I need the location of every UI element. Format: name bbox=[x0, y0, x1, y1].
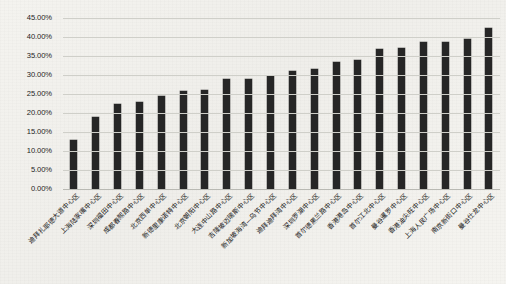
y-axis-tick-label: 0.00% bbox=[6, 184, 52, 193]
gridline bbox=[63, 37, 500, 38]
gridline bbox=[63, 75, 500, 76]
x-axis-labels: 迪拜扎耶德大道中心区上海陆家嘴中心区深圳福田中心区成都春熙路中心区北京西单中心区… bbox=[63, 190, 500, 284]
bar-slot bbox=[260, 18, 282, 189]
gridline bbox=[63, 151, 500, 152]
bar-slot bbox=[85, 18, 107, 189]
bar[interactable] bbox=[376, 49, 383, 189]
y-axis-tick-label: 20.00% bbox=[6, 108, 52, 117]
bar-slot bbox=[216, 18, 238, 189]
bar[interactable] bbox=[158, 96, 165, 189]
gridline bbox=[63, 18, 500, 19]
gridline bbox=[63, 56, 500, 57]
bar-slot bbox=[107, 18, 129, 189]
bar-slot bbox=[238, 18, 260, 189]
bar[interactable] bbox=[136, 102, 143, 189]
y-axis-tick-label: 35.00% bbox=[6, 51, 52, 60]
bar[interactable] bbox=[201, 90, 208, 189]
bar-slot bbox=[150, 18, 172, 189]
bar[interactable] bbox=[442, 42, 449, 189]
bar[interactable] bbox=[114, 104, 121, 189]
bar[interactable] bbox=[223, 79, 230, 189]
bar-chart: 0.00%5.00%10.00%15.00%20.00%25.00%30.00%… bbox=[0, 0, 506, 284]
gridline bbox=[63, 113, 500, 114]
bar-slot bbox=[172, 18, 194, 189]
bar-slot bbox=[478, 18, 500, 189]
y-axis-tick-label: 40.00% bbox=[6, 32, 52, 41]
y-axis-tick-label: 25.00% bbox=[6, 89, 52, 98]
bar-slot bbox=[347, 18, 369, 189]
y-axis-tick-label: 5.00% bbox=[6, 165, 52, 174]
bar-slot bbox=[456, 18, 478, 189]
bar[interactable] bbox=[70, 140, 77, 189]
y-axis-tick-label: 15.00% bbox=[6, 127, 52, 136]
bar-slot bbox=[391, 18, 413, 189]
bar-slot bbox=[63, 18, 85, 189]
bar[interactable] bbox=[245, 79, 252, 189]
bar[interactable] bbox=[398, 48, 405, 189]
bar-slot bbox=[281, 18, 303, 189]
gridline bbox=[63, 94, 500, 95]
plot-area: 0.00%5.00%10.00%15.00%20.00%25.00%30.00%… bbox=[63, 18, 500, 189]
y-axis-tick-label: 10.00% bbox=[6, 146, 52, 155]
gridline bbox=[63, 132, 500, 133]
bar-slot bbox=[413, 18, 435, 189]
bar-slot bbox=[194, 18, 216, 189]
y-axis-tick-label: 45.00% bbox=[6, 13, 52, 22]
bar[interactable] bbox=[289, 71, 296, 189]
bar[interactable] bbox=[92, 117, 99, 189]
y-axis-tick-label: 30.00% bbox=[6, 70, 52, 79]
bar[interactable] bbox=[420, 42, 427, 189]
bar-slot bbox=[369, 18, 391, 189]
bar-slot bbox=[303, 18, 325, 189]
gridline bbox=[63, 170, 500, 171]
bar-slot bbox=[325, 18, 347, 189]
bar-slot bbox=[129, 18, 151, 189]
bar-series bbox=[63, 18, 500, 189]
bar[interactable] bbox=[180, 91, 187, 189]
bar-slot bbox=[434, 18, 456, 189]
bar[interactable] bbox=[485, 28, 492, 190]
